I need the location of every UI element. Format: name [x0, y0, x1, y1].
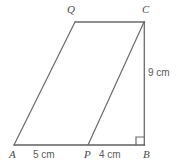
vertex-label-Q: Q	[67, 4, 75, 15]
vertex-label-P: P	[84, 149, 91, 160]
segment-AQ	[14, 22, 75, 145]
measurement-label-CB: 9 cm	[148, 68, 170, 78]
geometry-canvas	[0, 0, 181, 166]
segment-PC	[88, 22, 144, 145]
geometry-figure: Q C A P B 5 cm 4 cm 9 cm	[0, 0, 181, 166]
right-angle-marker	[136, 137, 144, 145]
measurement-label-AP: 5 cm	[33, 150, 55, 160]
vertex-label-A: A	[9, 149, 16, 160]
measurement-label-PB: 4 cm	[99, 150, 121, 160]
vertex-label-B: B	[143, 149, 150, 160]
vertex-label-C: C	[142, 4, 149, 15]
